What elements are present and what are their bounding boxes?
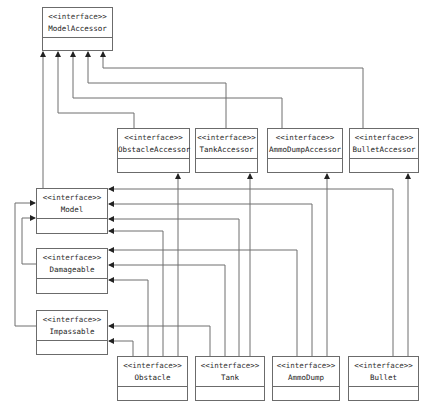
stereotype-label: <<interface>> — [118, 357, 187, 371]
interface-name: ObstacleAccessor — [118, 144, 189, 156]
stereotype-label: <<interface>> — [37, 249, 107, 263]
edge-tankaccessor-to-modelaccessor — [88, 52, 226, 128]
stereotype-label: <<interface>> — [350, 129, 418, 143]
edge-damageable-to-model — [22, 218, 36, 264]
edge-obstacleaccessor-to-modelaccessor — [58, 52, 134, 128]
interface-header: <<interface>> BulletAccessor — [350, 129, 418, 159]
stereotype-label: <<interface>> — [349, 357, 418, 371]
interface-obstacle: <<interface>> Obstacle — [117, 356, 188, 401]
edge-tank-to-damageable — [109, 265, 225, 356]
edge-ammodumpaccessor-to-modelaccessor — [73, 52, 282, 128]
interface-header: <<interface>> Impassable — [37, 311, 107, 341]
edge-bullet-to-model — [109, 189, 393, 356]
interface-name: Tank — [196, 372, 264, 384]
interface-header: <<interface>> AmmoDumpAccessor — [268, 129, 342, 159]
interface-name: Model — [37, 204, 107, 216]
edge-tank-to-model — [109, 219, 239, 356]
interface-tank: <<interface>> Tank — [195, 356, 265, 401]
interface-header: <<interface>> ObstacleAccessor — [118, 129, 189, 159]
interface-header: <<interface>> Damageable — [37, 249, 107, 279]
interface-bullet: <<interface>> Bullet — [348, 356, 419, 401]
interface-header: <<interface>> AmmoDump — [273, 357, 339, 387]
stereotype-label: <<interface>> — [37, 311, 107, 325]
edge-bulletaccessor-to-modelaccessor — [103, 52, 363, 128]
interface-ammodump: <<interface>> AmmoDump — [272, 356, 340, 401]
interface-name: BulletAccessor — [350, 144, 418, 156]
interface-tankaccessor: <<interface>> TankAccessor — [195, 128, 258, 173]
interface-header: <<interface>> ModelAccessor — [43, 8, 112, 38]
interface-header: <<interface>> Obstacle — [118, 357, 187, 387]
interface-damageable: <<interface>> Damageable — [36, 248, 108, 294]
interface-modelaccessor: <<interface>> ModelAccessor — [42, 7, 113, 51]
interface-bulletaccessor: <<interface>> BulletAccessor — [349, 128, 419, 173]
stereotype-label: <<interface>> — [268, 129, 342, 143]
edge-ammodump-to-damageable — [109, 250, 297, 356]
interface-name: Damageable — [37, 264, 107, 276]
interface-header: <<interface>> TankAccessor — [196, 129, 257, 159]
interface-name: AmmoDumpAccessor — [268, 144, 342, 156]
interface-name: ModelAccessor — [43, 23, 112, 35]
stereotype-label: <<interface>> — [118, 129, 189, 143]
stereotype-label: <<interface>> — [43, 8, 112, 22]
interface-obstacleaccessor: <<interface>> ObstacleAccessor — [117, 128, 190, 173]
interface-model: <<interface>> Model — [36, 188, 108, 234]
edge-obstacle-to-impassable — [109, 341, 133, 356]
stereotype-label: <<interface>> — [196, 357, 264, 371]
interface-impassable: <<interface>> Impassable — [36, 310, 108, 355]
stereotype-label: <<interface>> — [273, 357, 339, 371]
edge-obstacle-to-damageable — [109, 280, 148, 356]
interface-header: <<interface>> Tank — [196, 357, 264, 387]
interface-header: <<interface>> Bullet — [349, 357, 418, 387]
interface-name: AmmoDump — [273, 372, 339, 384]
interface-ammodumpaccessor: <<interface>> AmmoDumpAccessor — [267, 128, 343, 173]
interface-header: <<interface>> Model — [37, 189, 107, 219]
stereotype-label: <<interface>> — [37, 189, 107, 203]
interface-name: Obstacle — [118, 372, 187, 384]
stereotype-label: <<interface>> — [196, 129, 257, 143]
interface-name: Bullet — [349, 372, 418, 384]
interface-name: Impassable — [37, 326, 107, 338]
interface-name: TankAccessor — [196, 144, 257, 156]
